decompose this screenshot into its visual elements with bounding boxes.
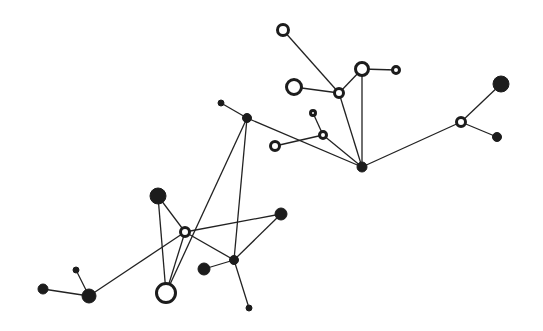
node-B-open-circle bbox=[287, 80, 302, 95]
node-W-filled-circle bbox=[38, 284, 48, 294]
node-P-open-circle bbox=[181, 228, 190, 237]
node-R-filled-circle bbox=[230, 256, 239, 265]
edge-H-F bbox=[323, 135, 362, 167]
network-diagram bbox=[0, 0, 543, 331]
node-U-open-circle bbox=[157, 284, 176, 303]
node-C-open-circle bbox=[335, 89, 344, 98]
node-E-open-circle bbox=[393, 67, 400, 74]
edges-layer bbox=[43, 30, 501, 308]
node-T-filled-circle bbox=[246, 305, 252, 311]
nodes-layer bbox=[38, 25, 509, 312]
node-L-open-circle bbox=[457, 118, 466, 127]
node-A-open-circle bbox=[278, 25, 289, 36]
edge-F-L bbox=[362, 122, 461, 167]
node-D-open-circle bbox=[356, 63, 369, 76]
node-M-filled-circle bbox=[493, 76, 509, 92]
edge-P-R bbox=[185, 232, 234, 260]
node-N-filled-circle bbox=[493, 133, 502, 142]
edge-C-F bbox=[339, 93, 362, 167]
node-F-filled-circle bbox=[357, 162, 367, 172]
node-H-open-circle bbox=[320, 132, 327, 139]
node-J-filled-circle bbox=[243, 114, 252, 123]
edge-O-U bbox=[158, 196, 166, 293]
edge-R-T bbox=[234, 260, 249, 308]
node-I-open-circle bbox=[271, 142, 280, 151]
node-V-filled-circle bbox=[82, 289, 96, 303]
edge-J-F bbox=[247, 118, 362, 167]
node-Q-filled-circle bbox=[275, 208, 287, 220]
edge-J-R bbox=[234, 118, 247, 260]
node-K-filled-circle bbox=[218, 100, 224, 106]
node-X-filled-circle bbox=[73, 267, 79, 273]
edge-P-Q bbox=[185, 214, 281, 232]
node-G-open-circle bbox=[311, 111, 316, 116]
node-S-filled-circle bbox=[198, 263, 210, 275]
node-O-filled-circle bbox=[150, 188, 166, 204]
